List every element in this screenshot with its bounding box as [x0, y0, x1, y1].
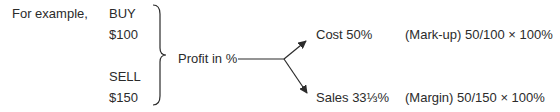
markup-formula: (Mark-up) 50/100 × 100%	[405, 27, 553, 43]
curly-brace-icon	[153, 5, 166, 105]
margin-formula: (Margin) 50/150 × 100%	[405, 90, 545, 106]
sales-result: Sales 33⅓%	[316, 90, 389, 106]
profit-label: Profit in %	[178, 51, 237, 67]
cost-result: Cost 50%	[316, 27, 372, 43]
